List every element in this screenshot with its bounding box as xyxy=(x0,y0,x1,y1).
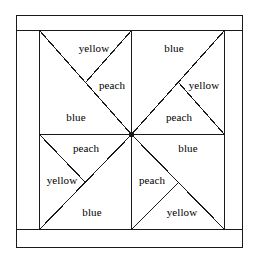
quilt-block-drawing xyxy=(0,0,259,263)
patch-label-bl-top: peach xyxy=(73,142,99,154)
patch-label-tl-right: peach xyxy=(99,79,125,91)
patch-label-bl-left: yellow xyxy=(47,174,78,186)
patch-label-br-top: blue xyxy=(178,142,197,154)
quilt-block-figure: yellow blue peach yellow blue peach peac… xyxy=(0,0,259,263)
patch-label-tr-top: blue xyxy=(164,42,183,54)
patch-label-tl-bottom: blue xyxy=(66,111,85,123)
center-convergence-point xyxy=(129,132,134,137)
patch-label-br-left: peach xyxy=(139,174,165,186)
patch-label-tr-upper-right: yellow xyxy=(189,79,220,91)
patch-label-tl-top: yellow xyxy=(79,42,110,54)
patch-label-bl-bottom: blue xyxy=(82,206,101,218)
patch-label-br-bottom: yellow xyxy=(167,206,198,218)
patch-label-tr-lower: peach xyxy=(166,111,192,123)
